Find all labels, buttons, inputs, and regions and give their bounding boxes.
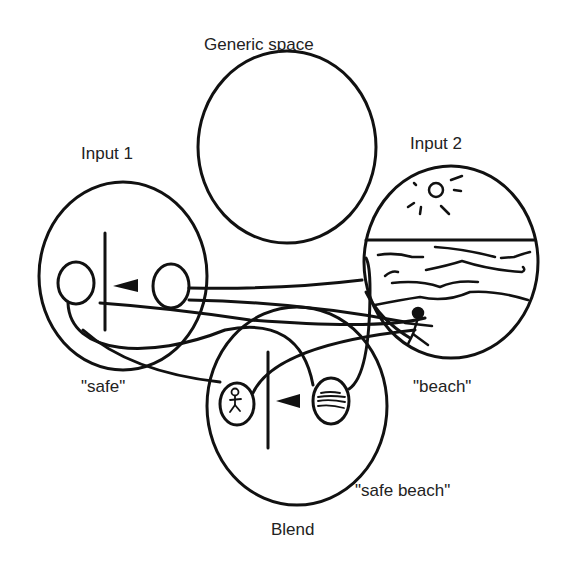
sun-icon bbox=[408, 176, 462, 214]
input1-space bbox=[39, 182, 207, 370]
input2-label: Input 2 bbox=[410, 134, 462, 154]
input1-circle bbox=[39, 182, 207, 370]
input1-right-element bbox=[153, 264, 189, 308]
blend-label: Blend bbox=[271, 520, 314, 540]
person-running-icon bbox=[405, 308, 432, 345]
input2-space bbox=[364, 166, 538, 358]
arrow-left-icon bbox=[113, 279, 138, 292]
mapping-line bbox=[189, 280, 362, 288]
input2-circle bbox=[364, 166, 538, 358]
arrow-left-icon bbox=[276, 394, 300, 408]
input1-left-element bbox=[58, 262, 94, 304]
safe-beach-caption: "safe beach" bbox=[355, 481, 450, 501]
conceptual-blending-diagram bbox=[0, 0, 565, 571]
waves-icon bbox=[318, 392, 345, 408]
generic-space-circle bbox=[198, 51, 376, 243]
sea-waves-icon bbox=[375, 247, 530, 305]
person-icon bbox=[230, 389, 241, 413]
beach-caption: "beach" bbox=[413, 377, 471, 397]
input1-label: Input 1 bbox=[81, 144, 133, 164]
safe-caption: "safe" bbox=[81, 377, 125, 397]
mapping-line bbox=[253, 330, 415, 393]
generic-space-label: Generic space bbox=[204, 35, 314, 55]
